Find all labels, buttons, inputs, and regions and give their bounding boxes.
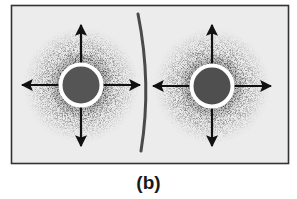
- diagram-figure: [0, 0, 297, 199]
- right-ring-icon: [192, 66, 233, 107]
- left-ring-icon: [61, 65, 102, 106]
- panel-label: (b): [0, 172, 297, 194]
